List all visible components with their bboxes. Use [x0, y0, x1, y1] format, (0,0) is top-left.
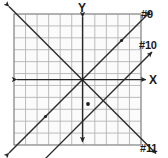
point-lower-left: [44, 115, 47, 118]
x-axis-label: X: [149, 74, 157, 86]
line-10-label: #10: [139, 40, 157, 51]
point-upper-right: [120, 39, 123, 42]
point-origin: [81, 78, 84, 81]
grid-and-lines-svg: [0, 0, 168, 158]
y-axis-label: Y: [78, 2, 86, 14]
coordinate-grid-figure: Y X #9 #10 #11: [0, 0, 168, 158]
point-lower-mid: [86, 102, 90, 106]
line-9-label: #9: [141, 9, 153, 20]
line-11-label: #11: [140, 143, 157, 154]
